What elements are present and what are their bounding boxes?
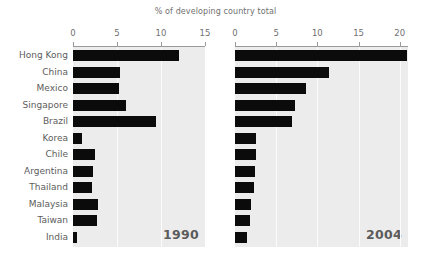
bar-row (73, 163, 205, 180)
bar-1990-korea (73, 133, 82, 144)
bar-row (73, 97, 205, 114)
bar-row (235, 229, 408, 246)
x-tick-label-1990-5: 5 (114, 28, 119, 38)
category-label-argentina: Argentina (24, 163, 68, 180)
category-label-china: China (42, 64, 68, 81)
bar-2004-singapore (235, 100, 295, 111)
category-label-korea: Korea (42, 130, 68, 147)
bar-1990-chile (73, 149, 95, 160)
bar-row (73, 114, 205, 131)
x-tick-mark-1990-15 (205, 42, 206, 46)
x-tick-label-2004-15: 15 (353, 28, 364, 38)
bar-1990-india (73, 232, 77, 243)
bar-row (73, 64, 205, 81)
bar-row (235, 64, 408, 81)
x-tick-label-1990-15: 15 (200, 28, 211, 38)
bar-1990-thailand (73, 182, 92, 193)
bar-row (235, 180, 408, 197)
bar-row (235, 97, 408, 114)
bar-row (73, 48, 205, 65)
x-tick-label-2004-5: 5 (273, 28, 278, 38)
bar-1990-taiwan (73, 215, 97, 226)
bar-1990-malaysia (73, 199, 98, 210)
x-tick-label-2004-10: 10 (312, 28, 323, 38)
bar-row (235, 196, 408, 213)
bar-row (235, 213, 408, 230)
bar-2004-taiwan (235, 215, 250, 226)
bar-2004-korea (235, 133, 256, 144)
bar-row (73, 130, 205, 147)
category-label-malaysia: Malaysia (29, 196, 68, 213)
x-axis-ticks-1990: 051015 (73, 28, 205, 42)
panel-2004: 05101520 2004 (235, 28, 408, 42)
category-label-brazil: Brazil (43, 113, 68, 130)
bar-2004-hong-kong (235, 50, 407, 61)
bar-2004-malaysia (235, 199, 251, 210)
bar-2004-mexico (235, 83, 306, 94)
bar-1990-mexico (73, 83, 119, 94)
bar-row (235, 147, 408, 164)
bar-row (235, 114, 408, 131)
bar-row (73, 229, 205, 246)
bar-2004-chile (235, 149, 256, 160)
plot-area-2004: 2004 (235, 47, 408, 247)
bar-row (73, 196, 205, 213)
chart-figure: % of developing country total Hong KongC… (0, 0, 431, 267)
bar-row (235, 48, 408, 65)
bar-row (73, 81, 205, 98)
chart-title: % of developing country total (0, 7, 431, 16)
bar-row (235, 130, 408, 147)
bar-row (73, 213, 205, 230)
bar-2004-china (235, 67, 329, 78)
bar-row (235, 163, 408, 180)
bar-1990-argentina (73, 166, 93, 177)
category-label-hong-kong: Hong Kong (19, 47, 68, 64)
bar-1990-singapore (73, 100, 126, 111)
bar-2004-brazil (235, 116, 292, 127)
x-tick-label-1990-10: 10 (156, 28, 167, 38)
bar-1990-china (73, 67, 120, 78)
bar-row (73, 147, 205, 164)
x-tick-label-2004-0: 0 (232, 28, 237, 38)
category-label-thailand: Thailand (29, 179, 68, 196)
plot-area-1990: 1990 (73, 47, 205, 247)
bar-row (235, 81, 408, 98)
category-label-taiwan: Taiwan (37, 212, 68, 229)
x-axis-ticks-2004: 05101520 (235, 28, 408, 42)
bar-row (73, 180, 205, 197)
x-tick-label-1990-0: 0 (70, 28, 75, 38)
panel-1990: 051015 1990 (73, 28, 205, 42)
x-tick-label-2004-20: 20 (394, 28, 405, 38)
category-label-mexico: Mexico (37, 80, 68, 97)
bar-2004-argentina (235, 166, 255, 177)
category-label-india: India (46, 229, 68, 246)
bar-1990-brazil (73, 116, 156, 127)
bar-2004-india (235, 232, 247, 243)
category-label-singapore: Singapore (23, 97, 68, 114)
category-label-chile: Chile (45, 146, 68, 163)
bar-1990-hong-kong (73, 50, 179, 61)
bar-2004-thailand (235, 182, 254, 193)
